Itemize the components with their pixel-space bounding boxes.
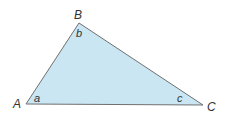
vertex-label-b: B xyxy=(74,8,82,22)
vertex-label-a: A xyxy=(12,97,21,111)
angle-label-b: b xyxy=(76,27,82,39)
triangle-diagram: A B C a b c xyxy=(0,0,238,120)
vertex-label-c: C xyxy=(207,100,216,114)
triangle-svg: A B C a b c xyxy=(0,0,238,120)
angle-label-c: c xyxy=(177,92,183,104)
angle-label-a: a xyxy=(34,92,40,104)
